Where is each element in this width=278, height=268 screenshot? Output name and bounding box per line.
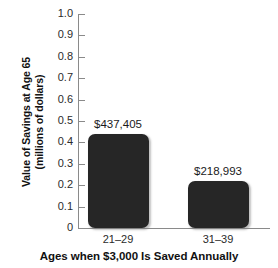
y-axis-tick-mark	[79, 35, 85, 36]
bar-group: $437,40521–29	[88, 134, 149, 228]
y-axis-tick: 0.8	[78, 57, 85, 58]
y-axis-tick-label: 0.5	[43, 114, 73, 126]
bar-value-label: $218,993	[194, 165, 242, 177]
y-axis-title-line-1: Value of Savings at Age 65	[20, 57, 33, 187]
y-axis-tick: 0.5	[78, 121, 85, 122]
y-axis-tick-mark	[79, 14, 85, 15]
y-axis-tick-mark	[79, 78, 85, 79]
y-axis-tick-label: 0.4	[43, 135, 73, 147]
y-axis-tick-mark	[79, 57, 85, 58]
x-axis-category-label: 21–29	[103, 233, 134, 245]
y-axis-tick-mark	[79, 164, 85, 165]
y-axis-tick: 0	[78, 228, 85, 229]
x-axis-title: Ages when $3,000 Is Saved Annually	[0, 250, 278, 262]
y-axis-tick: 0.3	[78, 164, 85, 165]
y-axis-tick: 0.4	[78, 142, 85, 143]
y-axis-tick-label: 0.2	[43, 178, 73, 190]
bar-value-label: $437,405	[94, 118, 142, 130]
y-axis-tick-label: 0.7	[43, 71, 73, 83]
y-axis-tick-label: 0	[43, 221, 73, 233]
bar-chart-figure: Value of Savings at Age 65 (millions of …	[0, 0, 278, 268]
bar	[88, 134, 149, 228]
y-axis-tick-label: 0.1	[43, 200, 73, 212]
x-axis-category-label: 31–39	[203, 233, 234, 245]
y-axis-tick-mark	[79, 228, 85, 229]
bar-group: $218,99331–39	[188, 181, 249, 228]
y-axis-tick-label: 0.3	[43, 157, 73, 169]
y-axis-tick-mark	[79, 207, 85, 208]
y-axis-tick: 0.2	[78, 185, 85, 186]
x-axis-line	[78, 228, 270, 229]
bar	[188, 181, 249, 228]
y-axis-tick-label: 1.0	[43, 7, 73, 19]
y-axis-tick-mark	[79, 100, 85, 101]
y-axis-tick: 0.6	[78, 100, 85, 101]
y-axis-tick: 1.0	[78, 14, 85, 15]
y-axis-tick: 0.1	[78, 207, 85, 208]
y-axis-tick-label: 0.6	[43, 93, 73, 105]
y-axis-tick: 0.7	[78, 78, 85, 79]
y-axis-tick-mark	[79, 142, 85, 143]
y-axis-tick-mark	[79, 121, 85, 122]
y-axis-tick-label: 0.9	[43, 28, 73, 40]
plot-area: 1.00.90.80.70.60.50.40.30.20.10 $437,405…	[78, 14, 270, 229]
y-axis-tick-mark	[79, 185, 85, 186]
y-axis-tick-label: 0.8	[43, 50, 73, 62]
y-axis-tick: 0.9	[78, 35, 85, 36]
